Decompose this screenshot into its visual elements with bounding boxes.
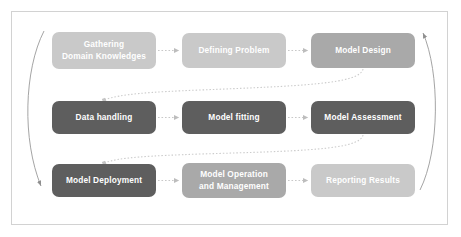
arrow-assessment-to-deployment	[104, 135, 363, 163]
node-model-deployment[interactable]: Model Deployment	[52, 164, 156, 197]
node-model-assessment[interactable]: Model Assessment	[311, 101, 415, 134]
arrow-model-design-to-data-handling	[104, 69, 363, 100]
node-reporting-results[interactable]: Reporting Results	[311, 164, 415, 197]
diagram-canvas: Gathering Domain Knowledges Defining Pro…	[0, 0, 461, 237]
node-defining-problem[interactable]: Defining Problem	[182, 33, 286, 68]
node-gathering-domain-knowledges[interactable]: Gathering Domain Knowledges	[52, 32, 156, 69]
node-model-operation-and-management[interactable]: Model Operation and Management	[182, 163, 286, 198]
node-model-fitting[interactable]: Model fitting	[182, 101, 286, 134]
node-data-handling[interactable]: Data handling	[52, 101, 156, 134]
arrow-right-loop-up	[420, 33, 435, 190]
arrow-left-loop-down	[28, 31, 44, 186]
node-model-design[interactable]: Model Design	[311, 33, 415, 68]
